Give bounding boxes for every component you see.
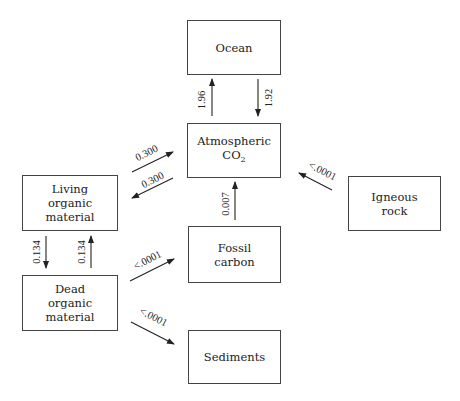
- node-dead-line2: organic: [48, 296, 92, 310]
- node-igneous-line1: Igneous: [371, 190, 417, 204]
- node-ocean-label: Ocean: [216, 41, 253, 55]
- arrow-dead-to-sediments: [131, 322, 174, 344]
- node-dead-line1: Dead: [55, 282, 85, 296]
- node-igneous-rock: Igneous rock: [348, 176, 441, 231]
- node-ocean: Ocean: [187, 20, 281, 75]
- node-atmospheric-label: Atmospheric: [197, 134, 271, 148]
- label-atmos-to-living: 0.300: [139, 170, 165, 190]
- label-ocean-to-atmos: 1.92: [263, 89, 274, 107]
- node-fossil-line2: carbon: [214, 255, 255, 269]
- node-living-line2: organic: [48, 196, 92, 210]
- label-dead-to-fossil: <.0001: [132, 248, 163, 271]
- label-dead-to-living: 0.134: [76, 239, 87, 263]
- node-fossil-line1: Fossil: [218, 241, 251, 255]
- node-igneous-line2: rock: [382, 204, 408, 218]
- node-living-organic-material: Living organic material: [22, 175, 118, 231]
- node-sediments: Sediments: [188, 330, 281, 384]
- node-atmospheric-formula: CO2: [222, 148, 245, 167]
- formula-prefix: CO: [222, 148, 240, 162]
- node-living-line3: material: [46, 210, 95, 224]
- label-living-to-dead: 0.134: [31, 239, 42, 263]
- label-dead-to-sediments: <.0001: [138, 305, 169, 328]
- formula-subscript: 2: [241, 155, 246, 164]
- node-dead-line3: material: [46, 310, 95, 324]
- node-sediments-label: Sediments: [204, 350, 265, 364]
- label-fossil-to-atmos: 0.007: [220, 192, 231, 216]
- label-atmos-to-ocean: 1.96: [196, 91, 207, 109]
- node-living-line1: Living: [52, 182, 88, 196]
- node-dead-organic-material: Dead organic material: [22, 275, 118, 331]
- node-fossil-carbon: Fossil carbon: [188, 226, 281, 283]
- node-atmospheric-co2: Atmospheric CO2: [187, 123, 281, 178]
